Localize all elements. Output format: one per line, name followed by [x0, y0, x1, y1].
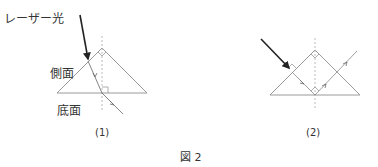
bottom-face-label: 底面	[57, 101, 81, 118]
panel-2-label: (2)	[306, 127, 320, 138]
panel-2-diagram	[261, 38, 360, 110]
panel-1-label: (1)	[95, 127, 109, 138]
laser-beam-1	[80, 15, 88, 59]
laser-label: レーザー光	[4, 9, 64, 26]
prism-2	[270, 50, 360, 95]
base-right-angle-1	[102, 87, 108, 93]
laser-beam-2	[261, 39, 289, 68]
reflected-ray-2	[315, 51, 357, 95]
side-face-label: 側面	[50, 64, 74, 81]
figure-caption: 図 2	[180, 148, 202, 164]
